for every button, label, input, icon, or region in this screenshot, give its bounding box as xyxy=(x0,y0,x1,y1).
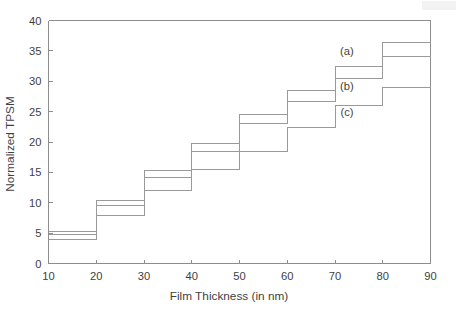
y-tick-label: 30 xyxy=(29,75,41,87)
chart-figure: 0510152025303540 102030405060708090 (a)(… xyxy=(0,0,458,309)
y-axis-tick-labels: 0510152025303540 xyxy=(29,15,41,270)
data-series-group xyxy=(49,43,431,239)
y-tick-label: 5 xyxy=(35,227,41,239)
x-tick-label: 40 xyxy=(186,270,198,282)
x-tick-label: 80 xyxy=(377,270,389,282)
x-axis-title: Film Thickness (in nm) xyxy=(170,289,288,303)
y-tick-label: 10 xyxy=(29,197,41,209)
x-tick-label: 90 xyxy=(424,270,436,282)
x-tick-label: 70 xyxy=(329,270,341,282)
page-scan-artifact xyxy=(422,1,456,10)
y-tick-label: 20 xyxy=(29,136,41,148)
step-chart: 0510152025303540 102030405060708090 (a)(… xyxy=(0,0,458,309)
y-axis-title: Normalized TPSM xyxy=(3,96,17,192)
y-tick-label: 25 xyxy=(29,106,41,118)
series-step-line-c xyxy=(49,87,431,239)
x-tick-label: 10 xyxy=(42,270,54,282)
series-annotation-b: (b) xyxy=(340,80,354,92)
y-tick-label: 35 xyxy=(29,45,41,57)
x-axis-tick-labels: 102030405060708090 xyxy=(42,270,436,282)
y-axis-ticks xyxy=(49,21,53,264)
y-tick-label: 15 xyxy=(29,166,41,178)
series-annotations: (a)(b)(c) xyxy=(340,45,354,118)
x-tick-label: 20 xyxy=(90,270,102,282)
series-annotation-a: (a) xyxy=(340,45,354,57)
y-tick-label: 0 xyxy=(35,258,41,270)
x-tick-label: 50 xyxy=(233,270,245,282)
x-tick-label: 30 xyxy=(138,270,150,282)
x-tick-label: 60 xyxy=(281,270,293,282)
series-annotation-c: (c) xyxy=(340,106,353,118)
series-step-line-b xyxy=(49,57,431,234)
y-tick-label: 40 xyxy=(29,15,41,27)
x-axis-ticks xyxy=(49,260,431,264)
